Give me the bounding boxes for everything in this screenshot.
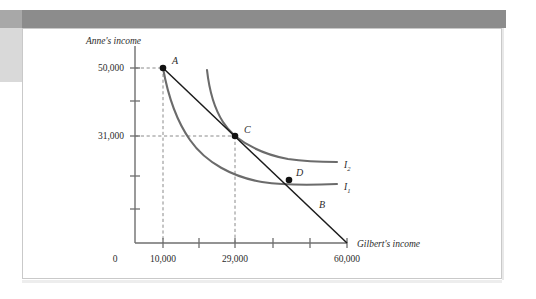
x-tick-label-60000: 60,000 xyxy=(334,254,360,264)
curve-i1-subscript: 1 xyxy=(347,187,350,194)
guide-lines xyxy=(135,68,235,243)
x-tick-label-0: 0 xyxy=(113,254,118,264)
y-axis-title: Anne's income xyxy=(85,36,141,46)
x-tick-label-10000: 10,000 xyxy=(150,254,176,264)
x-tick-label-29000: 29,000 xyxy=(222,254,248,264)
curve-i2-label: I2 xyxy=(343,160,351,172)
curve-i1-label: I1 xyxy=(343,182,350,194)
budget-line-b xyxy=(163,68,347,243)
point-c-label: C xyxy=(244,124,251,135)
point-a-marker xyxy=(160,65,167,72)
point-a-label: A xyxy=(171,55,179,66)
y-tick-label-31000: 31,000 xyxy=(98,131,124,141)
point-c-marker xyxy=(232,133,239,140)
point-d-marker xyxy=(286,177,293,184)
chart-figure: Anne's income Gilbert's income 50,000 31… xyxy=(0,0,536,299)
x-axis-title: Gilbert's income xyxy=(357,239,420,249)
curve-i2 xyxy=(207,70,337,162)
curve-i2-subscript: 2 xyxy=(347,165,351,172)
y-tick-label-50000: 50,000 xyxy=(98,63,124,73)
point-d-label: D xyxy=(295,167,304,178)
figure-page: Anne's income Gilbert's income 50,000 31… xyxy=(0,0,536,299)
point-b-label: B xyxy=(319,199,325,210)
